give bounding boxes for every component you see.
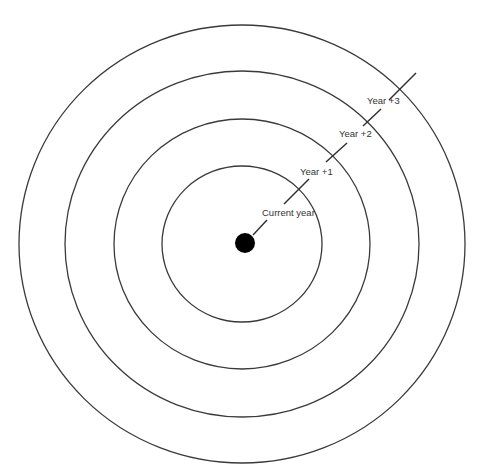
label-current-year: Current year bbox=[262, 207, 315, 218]
tick-current-year bbox=[284, 179, 309, 204]
tick-year-plus-2 bbox=[363, 109, 381, 126]
label-year-plus-2: Year +2 bbox=[339, 128, 372, 139]
labels-group: Current year Year +1 Year +2 Year +3 bbox=[262, 95, 400, 218]
center-dot-icon bbox=[235, 233, 255, 253]
dot-connector bbox=[253, 220, 267, 235]
label-year-plus-1: Year +1 bbox=[300, 166, 333, 177]
label-year-plus-3: Year +3 bbox=[367, 95, 400, 106]
concentric-rings-diagram: Current year Year +1 Year +2 Year +3 bbox=[0, 0, 482, 474]
